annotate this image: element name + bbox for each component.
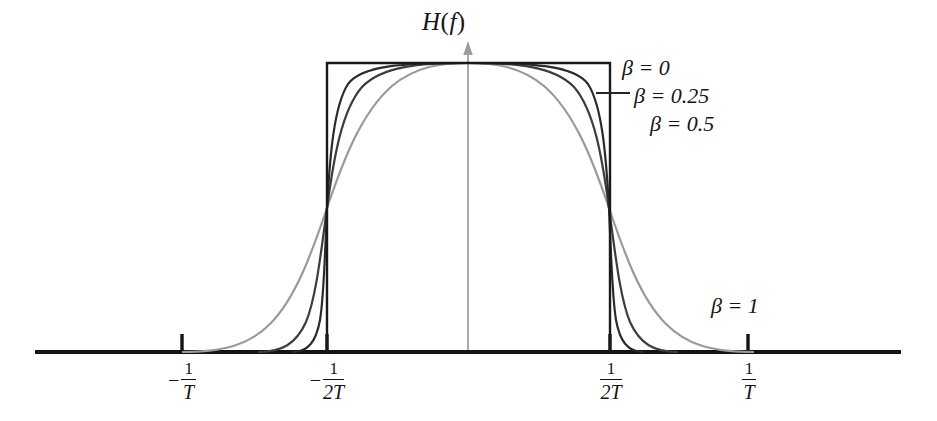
tick-numerator: 1 [600,360,621,380]
tick-label--1-over-T: −1T [150,360,214,403]
y-axis-label-main: H [422,8,441,35]
y-axis-label-paren-close: ) [457,8,466,35]
plot-canvas [0,0,937,421]
axis-ticks [182,334,748,352]
tick-numerator: 1 [323,360,344,380]
tick-denominator: T [742,380,757,403]
legend-label-beta-0: β = 0 [622,55,670,81]
legend-label-beta-025: β = 0.25 [634,83,709,109]
tick-denominator: 2T [600,380,621,403]
y-axis-label: H(f) [422,8,466,36]
tick-numerator: 1 [742,360,757,380]
y-axis-label-var: f [449,8,456,35]
tick-denominator: 2T [323,380,344,403]
legend-label-beta-1: β = 1 [711,293,759,319]
tick-numerator: 1 [181,360,196,380]
legend-label-beta-05: β = 0.5 [650,111,714,137]
tick-label-1-over-T: 1T [722,360,774,403]
tick-sign: − [168,370,181,390]
raised-cosine-figure: H(f) β = 0 β = 0.25 β = 0.5 β = 1 −1T −1… [0,0,937,421]
tick-denominator: T [181,380,196,403]
vertical-axis [463,41,473,352]
tick-label-1-over-2T: 12T [578,360,642,403]
tick-sign: − [310,370,323,390]
tick-label--1-over-2T: −12T [288,360,366,403]
